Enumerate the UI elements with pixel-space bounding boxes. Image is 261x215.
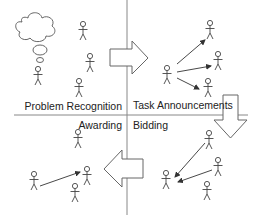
announce-arrow: [177, 78, 199, 89]
person-icon: [75, 78, 84, 97]
label-bidding: Bidding: [133, 119, 168, 131]
manager-icon: [163, 65, 172, 84]
arrow-right-icon: [110, 41, 148, 74]
thought-cloud-icon: [16, 13, 55, 63]
bidder-icon: [203, 181, 212, 200]
bid-arrow: [178, 170, 212, 182]
manager-icon: [162, 170, 171, 189]
manager-icon: [30, 171, 39, 190]
label-problem-recognition: Problem Recognition: [25, 100, 122, 112]
bidder-icon: [214, 157, 223, 176]
label-awarding: Awarding: [78, 119, 122, 131]
bidder-icon: [205, 130, 214, 149]
contractor-icon: [214, 51, 223, 70]
bid-arrow: [175, 143, 205, 177]
announce-arrow: [177, 40, 205, 64]
arrow-left-icon: [104, 150, 143, 187]
label-task-announcements: Task Announcements: [133, 99, 233, 111]
person-icon: [71, 183, 80, 202]
announce-arrow: [177, 66, 211, 72]
person-icon: [79, 21, 88, 40]
contractor-icon: [204, 78, 213, 97]
person-icon: [74, 129, 83, 148]
person-icon: [86, 53, 95, 72]
awardee-icon: [83, 166, 92, 185]
contractor-icon: [206, 20, 215, 39]
person-thinker-icon: [34, 66, 43, 85]
